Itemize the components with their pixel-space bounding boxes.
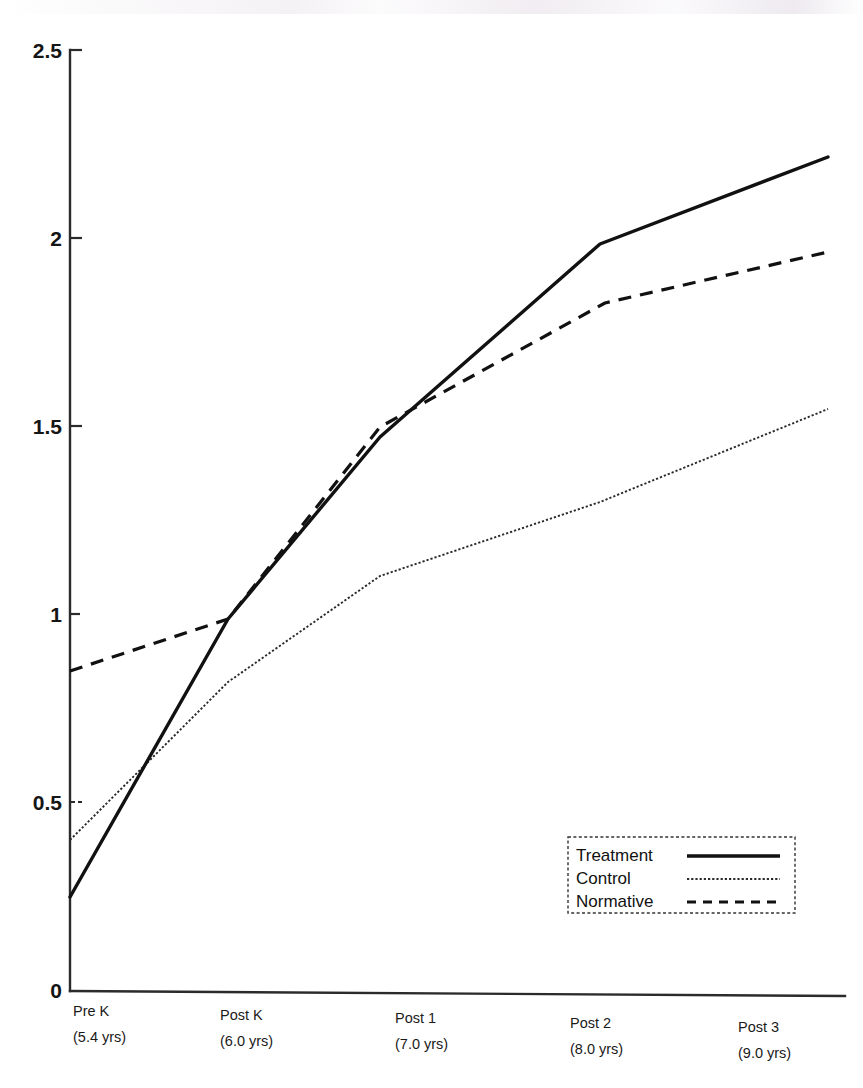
y-tick-marks	[70, 50, 82, 802]
x-tick-label-post-1-line2: (7.0 yrs)	[395, 1036, 448, 1052]
y-tick-labels: 2.5 2 1.5 1 0.5 0	[33, 39, 63, 1002]
x-tick-label-post-2: Post 2 (8.0 yrs)	[570, 1015, 623, 1057]
y-tick-label-2.5: 2.5	[33, 39, 63, 62]
series-line-normative	[70, 252, 828, 671]
x-tick-label-pre-k-line2: (5.4 yrs)	[73, 1029, 126, 1045]
x-tick-label-post-2-line1: Post 2	[570, 1015, 611, 1031]
series-line-treatment	[70, 157, 828, 897]
chart-figure: 2.5 2 1.5 1 0.5 0 Pre K (5.4 yrs) Post K…	[0, 0, 863, 1088]
x-tick-label-post-k-line1: Post K	[220, 1007, 263, 1023]
y-tick-label-1.5: 1.5	[33, 415, 63, 438]
x-tick-label-pre-k: Pre K (5.4 yrs)	[73, 1003, 126, 1045]
y-tick-label-0: 0	[50, 979, 62, 1002]
y-tick-label-2: 2	[50, 227, 62, 250]
x-tick-label-post-3-line1: Post 3	[738, 1019, 779, 1035]
x-tick-label-post-k: Post K (6.0 yrs)	[220, 1007, 273, 1049]
legend-label-normative: Normative	[576, 892, 653, 911]
x-tick-label-pre-k-line1: Pre K	[73, 1003, 110, 1019]
chart-legend: Treatment Control Normative	[568, 837, 795, 913]
x-axis-line	[70, 991, 845, 996]
line-chart-svg: 2.5 2 1.5 1 0.5 0 Pre K (5.4 yrs) Post K…	[0, 0, 863, 1088]
series-line-control	[70, 409, 828, 840]
y-tick-label-1: 1	[50, 603, 62, 626]
x-tick-label-post-1: Post 1 (7.0 yrs)	[395, 1010, 448, 1052]
legend-label-treatment: Treatment	[576, 846, 653, 865]
y-tick-label-0.5: 0.5	[33, 791, 63, 814]
x-tick-label-post-2-line2: (8.0 yrs)	[570, 1041, 623, 1057]
legend-label-control: Control	[576, 869, 631, 888]
x-tick-label-post-1-line1: Post 1	[395, 1010, 436, 1026]
x-tick-label-post-3-line2: (9.0 yrs)	[738, 1045, 791, 1061]
x-tick-labels: Pre K (5.4 yrs) Post K (6.0 yrs) Post 1 …	[73, 1003, 791, 1061]
x-tick-label-post-3: Post 3 (9.0 yrs)	[738, 1019, 791, 1061]
x-tick-label-post-k-line2: (6.0 yrs)	[220, 1033, 273, 1049]
